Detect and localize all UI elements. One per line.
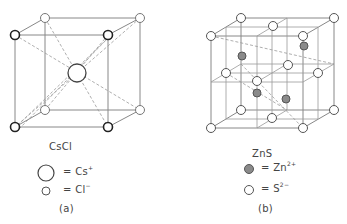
cscl-title: CsCl xyxy=(49,141,72,152)
zns-title: ZnS xyxy=(252,148,272,159)
legend-cl-text: = Cl xyxy=(63,184,86,195)
caption-b: (b) xyxy=(258,203,273,214)
legend-cl-symbol xyxy=(42,187,50,195)
legend-s-charge: 2− xyxy=(280,181,289,188)
legend-zn-text: = Zn xyxy=(261,162,287,173)
legend-s-text: = S xyxy=(261,183,280,194)
zns-unit-cell xyxy=(207,14,339,133)
legend-cl-label: = Cl− xyxy=(63,184,91,195)
legend-cs-text: = Cs xyxy=(63,166,88,177)
legend-s-label: = S2− xyxy=(261,183,289,194)
legend-zn-label: = Zn2+ xyxy=(261,162,296,173)
legend-cs-charge: + xyxy=(88,164,93,171)
legend-cs-label: = Cs+ xyxy=(63,166,93,177)
cscl-unit-cell xyxy=(11,14,145,132)
legend-cl-charge: − xyxy=(86,182,91,189)
legend-zn-symbol xyxy=(245,165,254,174)
legend-s-symbol xyxy=(245,186,254,195)
cscl-cs-atom xyxy=(68,64,86,82)
legend-cs-symbol xyxy=(38,165,54,181)
caption-a: (a) xyxy=(59,203,74,214)
crystal-structures-diagram xyxy=(0,0,347,224)
legend-zn-charge: 2+ xyxy=(287,160,296,167)
